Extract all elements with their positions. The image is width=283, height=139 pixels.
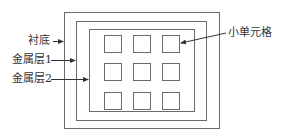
substrate-label: 衬底 [28, 35, 50, 47]
cell [134, 64, 151, 81]
cell [134, 93, 151, 110]
cell [105, 36, 122, 53]
cell [163, 93, 180, 110]
cell-grid [105, 36, 180, 110]
metal-layer-1-label: 金属层1 [12, 54, 52, 66]
metal-layer-1 [77, 22, 207, 121]
cell [105, 93, 122, 110]
small-cell-label: 小单元格 [228, 27, 272, 39]
cell [134, 36, 151, 53]
cell [163, 64, 180, 81]
metal-layer-2-label: 金属层2 [12, 73, 52, 85]
cell [105, 64, 122, 81]
layered-structure-diagram [0, 0, 283, 139]
cell [163, 36, 180, 53]
metal-layer-2 [90, 30, 195, 112]
